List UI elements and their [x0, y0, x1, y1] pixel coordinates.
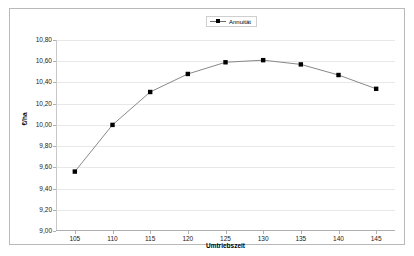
x-tick-label: 115	[135, 235, 165, 243]
x-tick-mark	[113, 231, 114, 234]
y-tick-label: 10,00	[18, 121, 52, 128]
y-tick-mark	[53, 231, 56, 232]
y-tick-label: 9,20	[18, 206, 52, 213]
legend-item-label: Annuität	[229, 18, 251, 26]
x-tick-label: 135	[286, 235, 316, 243]
chart-frame: Annuität €/ha Umtriebszeit 9,009,209,409…	[9, 8, 405, 245]
data-point-marker	[148, 90, 152, 94]
legend-marker-icon	[210, 18, 226, 25]
plot-area	[56, 40, 395, 231]
data-point-marker	[223, 60, 227, 64]
x-tick-mark	[301, 231, 302, 234]
x-tick-mark	[226, 231, 227, 234]
data-point-marker	[299, 62, 303, 66]
y-tick-label: 9,40	[18, 185, 52, 192]
y-tick-label: 9,00	[18, 227, 52, 234]
data-point-marker	[186, 72, 190, 76]
x-tick-mark	[339, 231, 340, 234]
y-tick-label: 10,20	[18, 100, 52, 107]
x-tick-mark	[75, 231, 76, 234]
x-tick-mark	[188, 231, 189, 234]
y-tick-label: 10,40	[18, 78, 52, 85]
x-axis-title: Umtriebszeit	[56, 242, 395, 250]
chart-legend: Annuität	[206, 16, 257, 27]
data-point-marker	[110, 123, 114, 127]
x-tick-mark	[376, 231, 377, 234]
y-tick-label: 9,80	[18, 142, 52, 149]
data-point-marker	[261, 58, 265, 62]
series-annuitaet	[56, 40, 395, 231]
y-tick-label: 9,60	[18, 163, 52, 170]
y-tick-label: 10,60	[18, 57, 52, 64]
data-point-marker	[73, 169, 77, 173]
x-tick-label: 140	[324, 235, 354, 243]
x-tick-label: 105	[60, 235, 90, 243]
x-tick-mark	[150, 231, 151, 234]
x-tick-label: 130	[248, 235, 278, 243]
data-point-marker	[374, 87, 378, 91]
x-tick-label: 145	[361, 235, 391, 243]
x-tick-mark	[263, 231, 264, 234]
y-tick-label: 10,80	[18, 36, 52, 43]
x-tick-label: 120	[173, 235, 203, 243]
series-line	[75, 60, 376, 171]
x-tick-label: 110	[98, 235, 128, 243]
data-point-marker	[336, 73, 340, 77]
x-tick-label: 125	[211, 235, 241, 243]
